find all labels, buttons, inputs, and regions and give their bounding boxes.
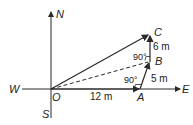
label-origin: O	[52, 91, 61, 103]
label-east: E	[182, 83, 190, 95]
label-north: N	[56, 8, 64, 20]
measurement-bc: 6 m	[153, 41, 170, 52]
measurement-ab: 5 m	[151, 73, 168, 84]
displacement-diagram: N S W E O A B C 12 m 5 m 6 m 90° 90°	[0, 0, 193, 125]
label-west: W	[9, 83, 21, 95]
angle-b: 90°	[133, 52, 147, 62]
label-c: C	[154, 26, 162, 38]
label-south: S	[42, 108, 50, 120]
vector-ab	[140, 63, 149, 89]
label-b: B	[155, 55, 162, 67]
label-a: A	[136, 91, 144, 103]
measurement-oa: 12 m	[90, 91, 112, 102]
angle-a: 90°	[124, 75, 138, 85]
